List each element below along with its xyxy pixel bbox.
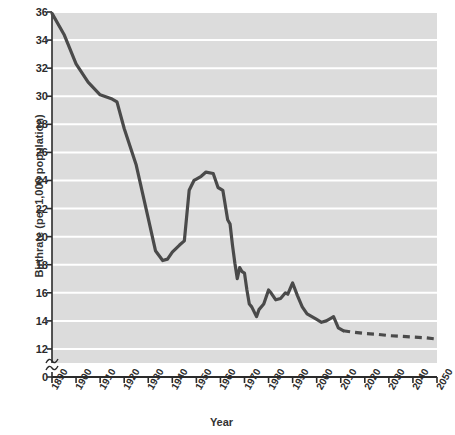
y-axis-title: Birthrate (per 1,000 population) — [33, 61, 45, 331]
x-axis-tick-label: 2020 — [362, 367, 383, 392]
x-axis-tick-label: 1940 — [169, 367, 190, 392]
x-axis-tick-label: 1990 — [290, 367, 311, 392]
x-axis-tick-label: 1970 — [242, 367, 263, 392]
x-axis-tick-label: 1960 — [217, 367, 238, 392]
x-axis-tick-label: 2050 — [434, 367, 455, 392]
x-axis-tick-label: 1890 — [49, 367, 70, 392]
x-axis-tick-label: 2010 — [338, 367, 359, 392]
x-axis-tick-label: 1900 — [73, 367, 94, 392]
x-axis-tick-label: 2030 — [386, 367, 407, 392]
x-axis-tick-label: 1950 — [193, 367, 214, 392]
x-axis-tick-label: 1910 — [97, 367, 118, 392]
x-axis-title: Year — [0, 416, 443, 428]
x-axis-tick-label: 1920 — [121, 367, 142, 392]
x-axis-tick-label: 1930 — [145, 367, 166, 392]
x-axis-tick-label: 1980 — [266, 367, 287, 392]
x-axis-tick-label: 2000 — [314, 367, 335, 392]
x-axis-tick-label: 2040 — [410, 367, 431, 392]
